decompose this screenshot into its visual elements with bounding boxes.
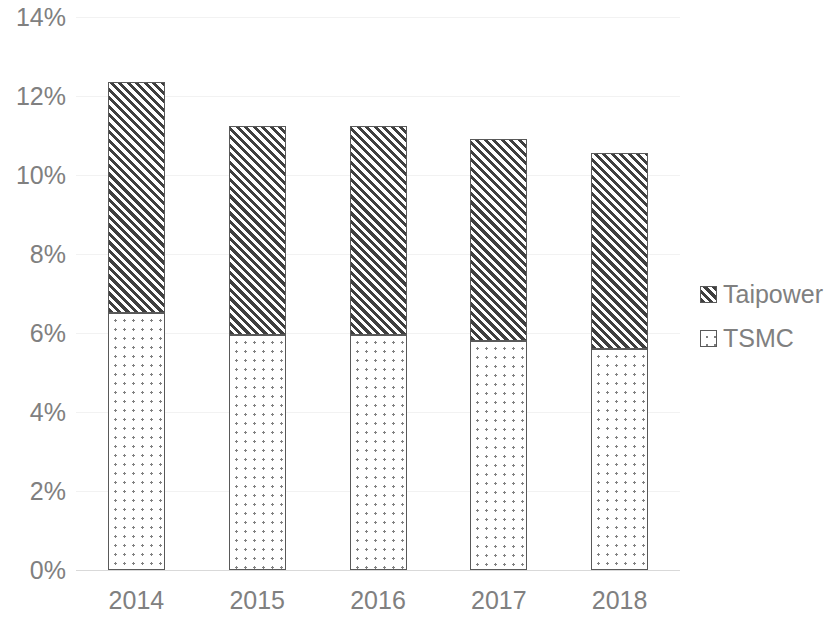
x-axis: 20142015201620172018: [76, 588, 680, 619]
legend-swatch-taipower-icon: [700, 286, 717, 303]
y-axis-tick-label: 10%: [0, 163, 66, 188]
bar-group[interactable]: [350, 17, 407, 570]
bar-group[interactable]: [229, 17, 286, 570]
chart-legend: TaipowerTSMC: [700, 272, 831, 360]
legend-item[interactable]: TSMC: [700, 316, 831, 360]
bar-group[interactable]: [591, 17, 648, 570]
y-axis-tick-label: 4%: [0, 400, 66, 425]
legend-swatch-tsmc-icon: [700, 330, 717, 347]
legend-label: Taipower: [723, 282, 823, 307]
y-axis: 0%2%4%6%8%10%12%14%: [0, 17, 66, 570]
bar-segment-tsmc[interactable]: [591, 349, 648, 570]
y-axis-tick-label: 2%: [0, 479, 66, 504]
y-axis-tick-label: 12%: [0, 84, 66, 109]
bar-group[interactable]: [470, 17, 527, 570]
stacked-bar-chart: 0%2%4%6%8%10%12%14% 20142015201620172018…: [0, 0, 831, 619]
x-axis-tick-label: 2014: [109, 588, 165, 613]
bar-segment-taipower[interactable]: [350, 126, 407, 335]
bar-segment-tsmc[interactable]: [229, 335, 286, 570]
x-axis-tick-label: 2015: [229, 588, 285, 613]
bar-segment-tsmc[interactable]: [470, 341, 527, 570]
y-axis-tick-label: 8%: [0, 242, 66, 267]
plot-area: [76, 17, 680, 570]
x-axis-tick-label: 2018: [592, 588, 648, 613]
bar-segment-taipower[interactable]: [229, 126, 286, 335]
bar-segment-taipower[interactable]: [591, 153, 648, 349]
x-axis-tick-label: 2017: [471, 588, 527, 613]
bar-segment-tsmc[interactable]: [108, 313, 165, 570]
x-axis-tick-label: 2016: [350, 588, 406, 613]
bar-segment-taipower[interactable]: [470, 139, 527, 340]
y-axis-tick-label: 14%: [0, 5, 66, 30]
legend-label: TSMC: [723, 326, 794, 351]
y-axis-tick-label: 6%: [0, 321, 66, 346]
bar-segment-taipower[interactable]: [108, 82, 165, 313]
bar-segment-tsmc[interactable]: [350, 335, 407, 570]
x-axis-line: [76, 570, 680, 571]
legend-item[interactable]: Taipower: [700, 272, 831, 316]
y-axis-tick-label: 0%: [0, 558, 66, 583]
bar-group[interactable]: [108, 17, 165, 570]
